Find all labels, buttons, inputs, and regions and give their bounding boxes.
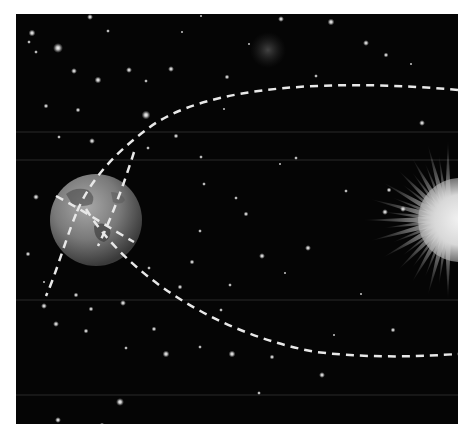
nebula: [250, 32, 286, 68]
sun: [363, 140, 458, 300]
space-illustration: [16, 14, 458, 424]
scene-svg: [16, 14, 458, 424]
